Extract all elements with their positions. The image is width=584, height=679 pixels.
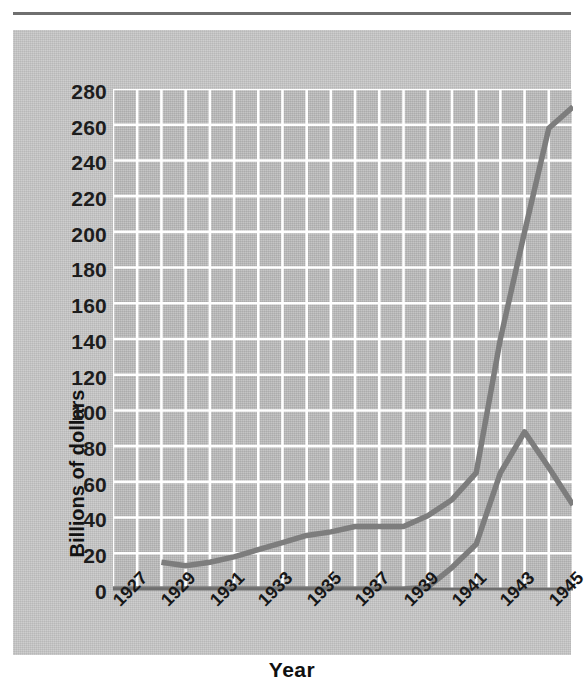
top-divider-rule <box>13 12 571 15</box>
y-tick-label: 180 <box>51 259 107 280</box>
y-axis-tick-labels: 280 260 240 220 200 180 160 140 120 100 … <box>43 89 107 589</box>
figure-page: Billions of dollars 280 260 240 220 200 … <box>0 0 584 679</box>
y-tick-label: 220 <box>51 188 107 209</box>
y-tick-label: 140 <box>51 331 107 352</box>
chart-figure-panel: Billions of dollars 280 260 240 220 200 … <box>13 30 571 655</box>
chart-canvas <box>113 89 573 589</box>
y-tick-label: 40 <box>51 509 107 530</box>
y-tick-label: 100 <box>51 402 107 423</box>
x-axis-tick-labels: 1927192919311933193519371939194119431945 <box>113 596 583 656</box>
horizontal-gridlines <box>113 89 573 589</box>
y-tick-label: 0 <box>51 581 107 602</box>
x-axis-title: Year <box>13 658 571 679</box>
y-tick-label: 60 <box>51 474 107 495</box>
y-tick-label: 160 <box>51 295 107 316</box>
y-tick-label: 20 <box>51 545 107 566</box>
series-line <box>161 107 573 566</box>
plot-area <box>113 89 573 589</box>
y-tick-label: 280 <box>51 81 107 102</box>
y-tick-label: 80 <box>51 438 107 459</box>
y-tick-label: 200 <box>51 224 107 245</box>
y-tick-label: 240 <box>51 152 107 173</box>
y-tick-label: 260 <box>51 117 107 138</box>
y-tick-label: 120 <box>51 367 107 388</box>
